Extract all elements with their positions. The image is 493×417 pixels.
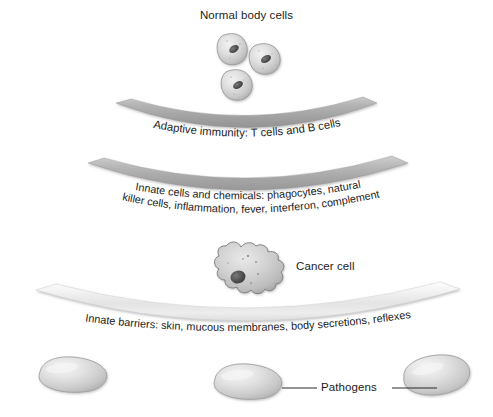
label-normal-body-cells: Normal body cells [0,9,493,21]
normal-body-cell [221,70,252,101]
label-pathogens: Pathogens [321,381,377,393]
normal-body-cell [217,34,247,65]
normal-body-cell [249,44,280,75]
label-cancer-cell: Cancer cell [296,260,355,272]
immunity-overview-diagram: Adaptive immunity: T cells and B cells I… [0,0,493,417]
